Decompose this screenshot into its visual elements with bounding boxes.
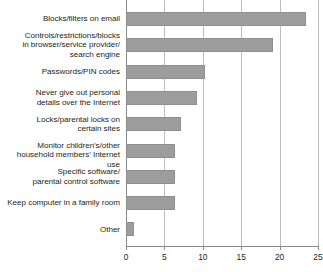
bar-row <box>126 38 318 52</box>
x-tick-label: 0 <box>124 252 129 262</box>
x-tick-15 <box>241 246 242 250</box>
x-tick-label: 5 <box>162 252 167 262</box>
bar-row <box>126 117 318 131</box>
x-axis-line <box>126 246 318 247</box>
bar-row <box>126 170 318 184</box>
x-tick-20 <box>280 246 281 250</box>
bar <box>126 196 175 210</box>
x-tick-label: 15 <box>237 252 246 262</box>
category-label: Controls/restrictions/blocksin browser/s… <box>2 31 120 60</box>
category-label-line: parental control software <box>2 177 120 187</box>
bar <box>126 222 134 236</box>
bar-row <box>126 12 318 26</box>
x-tick-label: 10 <box>198 252 207 262</box>
x-tick-label: 20 <box>275 252 284 262</box>
category-label-line: search engine <box>2 50 120 60</box>
category-label: Passwords/PIN codes <box>2 67 120 77</box>
bar-row <box>126 222 318 236</box>
category-label-line: Other <box>2 225 120 235</box>
bar-row <box>126 196 318 210</box>
category-label-line: Passwords/PIN codes <box>2 67 120 77</box>
bar <box>126 38 273 52</box>
bar <box>126 65 205 79</box>
category-label-line: Never give out personal <box>2 88 120 98</box>
x-tick-label: 25 <box>313 252 322 262</box>
bar-row <box>126 91 318 105</box>
category-axis-labels: Blocks/filters on emailControls/restrict… <box>0 0 124 246</box>
bar-series <box>126 0 318 246</box>
x-tick-0 <box>126 246 127 250</box>
category-label-line: Monitor children's/other <box>2 141 120 151</box>
bar <box>126 117 181 131</box>
category-label-line: certain sites <box>2 124 120 134</box>
category-label: Monitor children's/otherhousehold member… <box>2 141 120 170</box>
bar <box>126 12 306 26</box>
category-label-line: Keep computer in a family room <box>2 198 120 208</box>
category-label: Other <box>2 225 120 235</box>
x-tick-10 <box>203 246 204 250</box>
plot-area <box>126 0 318 246</box>
bar <box>126 170 175 184</box>
category-label-line: Locks/parental locks on <box>2 115 120 125</box>
bar <box>126 144 175 158</box>
category-label: Specific software/parental control softw… <box>2 167 120 186</box>
category-label-line: Specific software/ <box>2 167 120 177</box>
gridline-25 <box>318 0 319 246</box>
category-label-line: in browser/service provider/ <box>2 40 120 50</box>
category-label: Never give out personaldetails over the … <box>2 88 120 107</box>
x-tick-5 <box>164 246 165 250</box>
x-axis: 0510152025 <box>126 246 318 272</box>
category-label-line: Controls/restrictions/blocks <box>2 31 120 41</box>
category-label-line: Blocks/filters on email <box>2 14 120 24</box>
category-label: Blocks/filters on email <box>2 14 120 24</box>
category-label: Locks/parental locks oncertain sites <box>2 115 120 134</box>
bar-row <box>126 65 318 79</box>
x-tick-25 <box>318 246 319 250</box>
bar <box>126 91 197 105</box>
category-label-line: details over the Internet <box>2 98 120 108</box>
bar-row <box>126 144 318 158</box>
category-label: Keep computer in a family room <box>2 198 120 208</box>
